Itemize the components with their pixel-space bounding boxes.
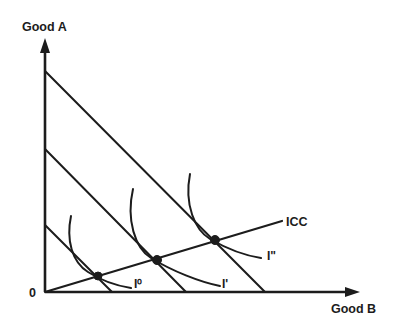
indifference-curve-label-i2: I" bbox=[267, 249, 276, 263]
tangency-point-1 bbox=[94, 272, 102, 280]
y-axis-label: Good A bbox=[22, 20, 67, 34]
indifference-curve-label-i1: I' bbox=[222, 277, 228, 291]
tangency-point-3 bbox=[211, 236, 220, 245]
icc-diagram-svg: Good A Good B 0 ICC I⁰ I' I" bbox=[0, 0, 395, 328]
indifference-curve-label-i0: I⁰ bbox=[134, 277, 142, 291]
tangency-point-2 bbox=[153, 256, 162, 265]
income-consumption-curve bbox=[45, 221, 282, 292]
economics-diagram-canvas: Good A Good B 0 ICC I⁰ I' I" bbox=[0, 0, 395, 328]
x-axis-arrow-icon bbox=[345, 287, 360, 297]
origin-label: 0 bbox=[29, 286, 36, 300]
icc-label: ICC bbox=[286, 215, 308, 229]
x-axis-label: Good B bbox=[331, 302, 376, 316]
y-axis-arrow-icon bbox=[40, 38, 50, 53]
